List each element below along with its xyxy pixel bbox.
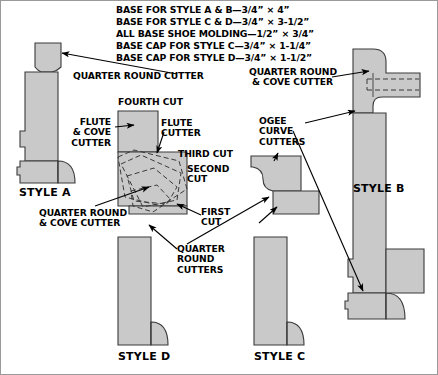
style-b-cap	[353, 49, 420, 113]
ogee-lower-piece	[273, 191, 319, 214]
label-style-c: STYLE C	[254, 351, 305, 363]
molding-styles-figure: BASE FOR STYLE A & B—3/4” × 4” BASE FOR …	[0, 0, 438, 375]
spec-line-4: BASE CAP FOR STYLE C—3/4” × 1-1/4”	[116, 41, 311, 51]
label-fourth-cut: FOURTH CUT	[118, 97, 183, 107]
leader-ogee-top	[305, 111, 355, 123]
callout-quarter-round-cutters: QUARTER ROUND CUTTERS	[177, 244, 225, 275]
style-b-lower	[345, 293, 386, 319]
style-d-board	[118, 237, 151, 345]
spec-line-3: ALL BASE SHOE MOLDING—1/2” × 3/4”	[116, 29, 314, 39]
label-style-a: STYLE A	[19, 187, 71, 199]
callout-quarter-round-and-cove-cutter-left: QUARTER ROUND & COVE CUTTER	[39, 208, 127, 229]
cut-diagram-upper-block	[118, 111, 158, 152]
callout-quarter-round-cutter: QUARTER ROUND CUTTER	[73, 71, 204, 81]
leader-quarter-round-cutters-d	[149, 225, 177, 249]
style-b-shoe	[386, 293, 405, 319]
callout-flute-and-cove-cutter: FLUTE & COVE CUTTER	[49, 117, 111, 148]
leader-ogee-cutter-low	[259, 207, 277, 223]
callout-flute-cutter: FLUTE CUTTER	[161, 118, 201, 139]
style-c-board	[254, 237, 287, 345]
spec-line-5: BASE CAP FOR STYLE D—3/4” × 1-1/2”	[116, 53, 312, 63]
label-second-cut: SECOND CUT	[187, 164, 229, 185]
style-d-shoe	[151, 322, 168, 345]
style-a-base-shoe	[58, 161, 75, 183]
label-style-b: STYLE B	[353, 183, 405, 195]
label-first-cut: FIRST CUT	[201, 207, 230, 228]
label-style-d: STYLE D	[118, 351, 170, 363]
ogee-upper-piece	[251, 156, 301, 191]
style-b-cap-return	[386, 249, 424, 293]
callout-ogee-curve-cutters: OGEE CURVE CUTTERS	[259, 116, 305, 147]
callout-quarter-round-and-cove-cutter-right: QUARTER ROUND & COVE CUTTER	[249, 67, 333, 88]
style-b-board	[348, 113, 386, 293]
label-third-cut: THIRD CUT	[178, 149, 233, 159]
spec-line-2: BASE FOR STYLE C & D—3/4” × 3-1/2”	[116, 17, 309, 27]
spec-line-1: BASE FOR STYLE A & B—3/4” × 4”	[116, 5, 289, 15]
style-a-base-lower	[17, 161, 58, 183]
style-a-base-cap	[35, 43, 61, 72]
style-c-shoe	[287, 322, 304, 345]
